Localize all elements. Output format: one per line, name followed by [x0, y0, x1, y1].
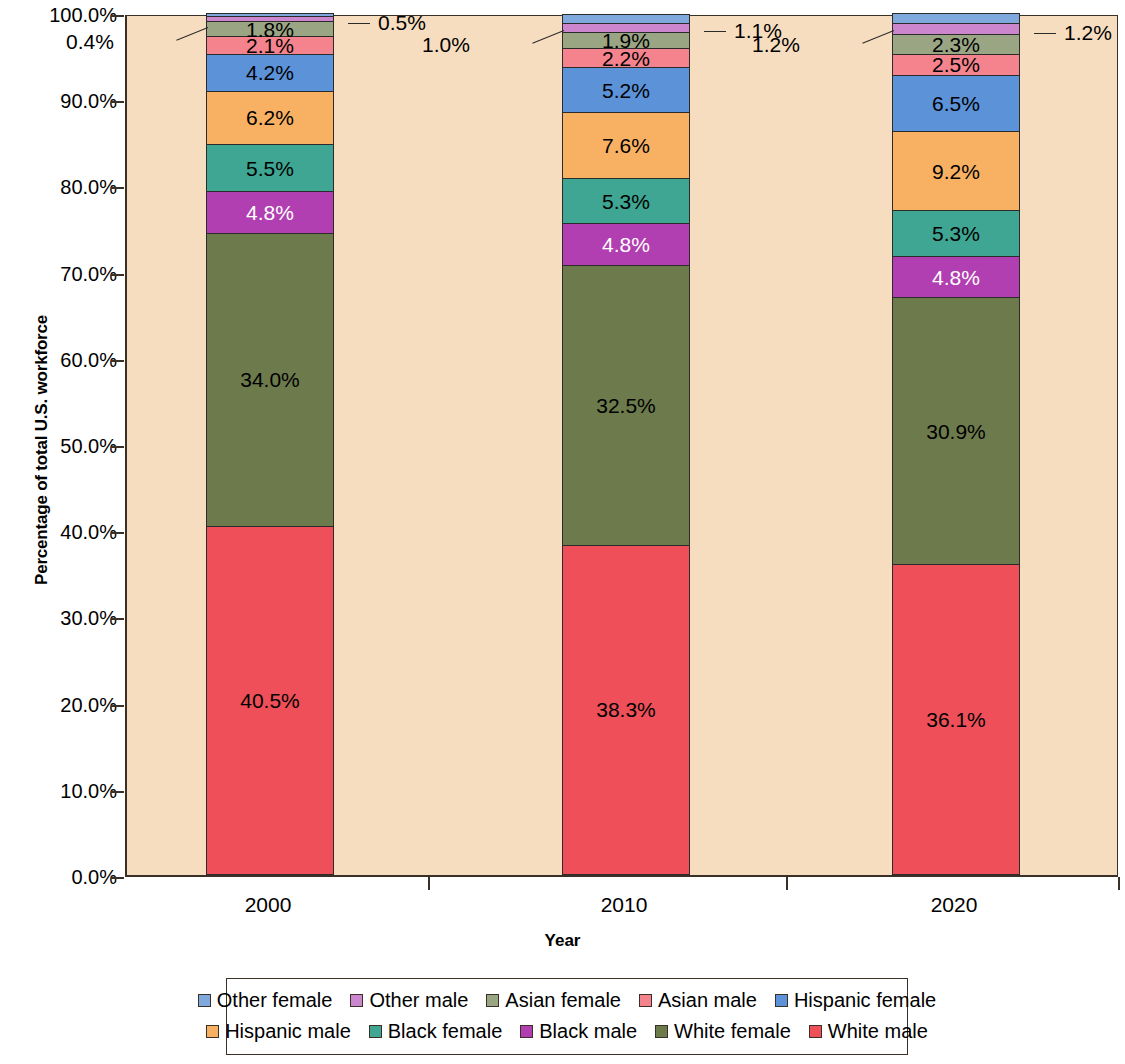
- bar-segment-white-female[interactable]: 34.0%: [206, 233, 334, 526]
- legend-item-asian-male[interactable]: Asian male: [639, 989, 757, 1012]
- legend-row-1: Other femaleOther maleAsian femaleAsian …: [227, 985, 907, 1016]
- bar-segment-asian-male[interactable]: 2.2%: [562, 48, 690, 67]
- bar-segment-hispanic-male[interactable]: 6.2%: [206, 91, 334, 144]
- bar-2020[interactable]: 36.1%30.9%4.8%5.3%9.2%6.5%2.5%2.3%: [892, 13, 1020, 875]
- segment-value-label: 30.9%: [926, 421, 986, 442]
- callout-label-other-female: 1.0%: [422, 33, 470, 57]
- legend-item-black-male[interactable]: Black male: [520, 1020, 637, 1043]
- legend-label: Asian female: [505, 989, 621, 1012]
- bar-segment-other-female[interactable]: [562, 14, 690, 23]
- bar-segment-hispanic-male[interactable]: 7.6%: [562, 112, 690, 178]
- bar-segment-black-male[interactable]: 4.8%: [892, 256, 1020, 297]
- bar-2010[interactable]: 38.3%32.5%4.8%5.3%7.6%5.2%2.2%1.9%: [562, 13, 690, 875]
- callout-label-other-female: 1.2%: [752, 33, 800, 57]
- legend-item-white-female[interactable]: White female: [655, 1020, 791, 1043]
- segment-value-label: 6.2%: [246, 107, 294, 128]
- legend-swatch-icon: [350, 994, 363, 1007]
- bar-segment-asian-female[interactable]: 1.8%: [206, 21, 334, 37]
- bar-segment-other-male[interactable]: [562, 23, 690, 32]
- segment-value-label: 6.5%: [932, 93, 980, 114]
- segment-value-label: 5.3%: [602, 191, 650, 212]
- legend-row-2: Hispanic maleBlack femaleBlack maleWhite…: [227, 1016, 907, 1047]
- bar-segment-white-male[interactable]: 36.1%: [892, 564, 1020, 875]
- bar-segment-black-male[interactable]: 4.8%: [562, 223, 690, 264]
- segment-value-label: 2.5%: [932, 54, 980, 75]
- legend-label: Other female: [217, 989, 333, 1012]
- bar-segment-asian-female[interactable]: 1.9%: [562, 32, 690, 48]
- legend-item-black-female[interactable]: Black female: [369, 1020, 503, 1043]
- y-tick-label: 10.0%: [17, 779, 117, 802]
- bar-segment-other-female[interactable]: [206, 13, 334, 16]
- y-tick-label: 70.0%: [17, 262, 117, 285]
- y-tick-mark: [111, 532, 124, 534]
- y-tick-label: 0.0%: [17, 866, 117, 889]
- x-tick-mark: [1118, 877, 1120, 890]
- segment-value-label: 2.1%: [246, 35, 294, 56]
- legend-swatch-icon: [198, 994, 211, 1007]
- segment-value-label: 9.2%: [932, 161, 980, 182]
- legend-item-other-male[interactable]: Other male: [350, 989, 468, 1012]
- x-tick-label-2020: 2020: [864, 893, 1044, 917]
- y-tick-label: 40.0%: [17, 521, 117, 544]
- y-tick-mark: [111, 101, 124, 103]
- y-tick-label: 50.0%: [17, 435, 117, 458]
- callout-leader-line: [348, 23, 370, 24]
- segment-value-label: 5.3%: [932, 223, 980, 244]
- callout-label-other-female: 0.4%: [66, 30, 114, 54]
- bar-segment-other-male[interactable]: [892, 23, 1020, 33]
- bar-segment-white-female[interactable]: 32.5%: [562, 265, 690, 545]
- bar-segment-asian-male[interactable]: 2.5%: [892, 54, 1020, 76]
- segment-value-label: 5.2%: [602, 80, 650, 101]
- bar-segment-black-female[interactable]: 5.3%: [562, 178, 690, 224]
- bar-2000[interactable]: 40.5%34.0%4.8%5.5%6.2%4.2%2.1%1.8%: [206, 13, 334, 875]
- bar-segment-hispanic-male[interactable]: 9.2%: [892, 131, 1020, 210]
- bar-segment-black-female[interactable]: 5.5%: [206, 144, 334, 191]
- y-tick-label: 100.0%: [17, 4, 117, 27]
- bar-segment-white-female[interactable]: 30.9%: [892, 297, 1020, 563]
- callout-label-other-male: 1.2%: [1064, 21, 1112, 45]
- bar-segment-hispanic-female[interactable]: 5.2%: [562, 67, 690, 112]
- segment-value-label: 5.5%: [246, 158, 294, 179]
- segment-value-label: 2.3%: [932, 34, 980, 55]
- x-tick-mark: [428, 877, 430, 890]
- segment-value-label: 38.3%: [596, 699, 656, 720]
- y-tick-mark: [111, 15, 124, 17]
- legend-swatch-icon: [775, 994, 788, 1007]
- x-axis-title: Year: [0, 931, 1125, 951]
- legend-swatch-icon: [486, 994, 499, 1007]
- chart-legend: Other femaleOther maleAsian femaleAsian …: [226, 978, 908, 1055]
- legend-item-hispanic-male[interactable]: Hispanic male: [206, 1020, 351, 1043]
- legend-label: Black female: [388, 1020, 503, 1043]
- bar-segment-black-female[interactable]: 5.3%: [892, 210, 1020, 256]
- bar-segment-asian-female[interactable]: 2.3%: [892, 34, 1020, 54]
- bar-segment-hispanic-female[interactable]: 6.5%: [892, 75, 1020, 131]
- bar-segment-black-male[interactable]: 4.8%: [206, 191, 334, 232]
- bar-segment-asian-male[interactable]: 2.1%: [206, 36, 334, 54]
- legend-label: Asian male: [658, 989, 757, 1012]
- bar-segment-other-male[interactable]: [206, 16, 334, 20]
- y-tick-label: 80.0%: [17, 176, 117, 199]
- x-tick-label-2000: 2000: [178, 893, 358, 917]
- legend-item-other-female[interactable]: Other female: [198, 989, 333, 1012]
- bar-segment-white-male[interactable]: 38.3%: [562, 545, 690, 875]
- callout-label-other-male: 0.5%: [378, 11, 426, 35]
- y-axis-title: Percentage of total U.S. workforce: [32, 345, 52, 585]
- segment-value-label: 4.8%: [246, 202, 294, 223]
- segment-value-label: 32.5%: [596, 395, 656, 416]
- bar-segment-hispanic-female[interactable]: 4.2%: [206, 54, 334, 90]
- segment-value-label: 4.8%: [602, 234, 650, 255]
- segment-value-label: 2.2%: [602, 48, 650, 69]
- y-tick-label: 20.0%: [17, 693, 117, 716]
- segment-value-label: 4.2%: [246, 62, 294, 83]
- bar-segment-white-male[interactable]: 40.5%: [206, 526, 334, 875]
- stacked-bar-chart: Percentage of total U.S. workforce 0.0%1…: [0, 0, 1125, 1064]
- legend-item-hispanic-female[interactable]: Hispanic female: [775, 989, 936, 1012]
- legend-label: Hispanic female: [794, 989, 936, 1012]
- legend-item-asian-female[interactable]: Asian female: [486, 989, 621, 1012]
- legend-swatch-icon: [655, 1025, 668, 1038]
- legend-item-white-male[interactable]: White male: [809, 1020, 928, 1043]
- bar-segment-other-female[interactable]: [892, 13, 1020, 23]
- y-tick-mark: [111, 187, 124, 189]
- segment-value-label: 1.9%: [602, 30, 650, 51]
- callout-leader-line: [532, 30, 564, 44]
